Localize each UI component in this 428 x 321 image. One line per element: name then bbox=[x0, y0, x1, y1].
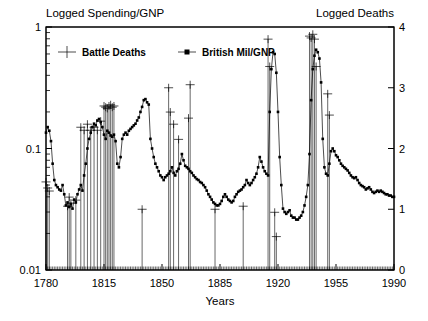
right-axis-tick-label: 0 bbox=[399, 264, 405, 276]
data-point-british-mil-gnp bbox=[139, 111, 142, 114]
data-point-british-mil-gnp bbox=[144, 98, 147, 101]
data-point-british-mil-gnp bbox=[244, 184, 247, 187]
left-axis-tick-label: 0.1 bbox=[26, 143, 41, 155]
data-point-british-mil-gnp bbox=[141, 106, 144, 109]
data-point-british-mil-gnp bbox=[126, 133, 129, 136]
data-point-british-mil-gnp bbox=[121, 138, 124, 141]
data-point-british-mil-gnp bbox=[171, 166, 174, 169]
data-point-british-mil-gnp bbox=[119, 156, 122, 159]
data-point-british-mil-gnp bbox=[355, 176, 358, 179]
data-point-british-mil-gnp bbox=[182, 159, 185, 162]
data-point-british-mil-gnp bbox=[346, 169, 349, 172]
data-point-british-mil-gnp bbox=[303, 204, 306, 207]
right-axis-tick-label: 2 bbox=[399, 143, 405, 155]
legend-label-battle-deaths: Battle Deaths bbox=[82, 47, 146, 58]
data-point-british-mil-gnp bbox=[278, 156, 281, 159]
data-point-british-mil-gnp bbox=[258, 156, 261, 159]
data-point-british-mil-gnp bbox=[181, 153, 184, 156]
data-point-british-mil-gnp bbox=[98, 118, 101, 121]
data-point-british-mil-gnp bbox=[84, 162, 87, 165]
data-point-british-mil-gnp bbox=[136, 119, 139, 122]
data-point-british-mil-gnp bbox=[205, 189, 208, 192]
data-point-british-mil-gnp bbox=[232, 200, 235, 203]
data-point-british-mil-gnp bbox=[118, 166, 121, 169]
data-point-british-mil-gnp bbox=[152, 156, 155, 159]
data-point-british-mil-gnp bbox=[46, 126, 49, 129]
right-axis-tick-label: 3 bbox=[399, 82, 405, 94]
data-point-british-mil-gnp bbox=[146, 101, 149, 104]
data-point-british-mil-gnp bbox=[76, 193, 79, 196]
data-point-british-mil-gnp bbox=[162, 179, 165, 182]
left-axis-title: Logged Spending/GNP bbox=[46, 7, 165, 19]
data-point-british-mil-gnp bbox=[48, 129, 51, 132]
data-point-british-mil-gnp bbox=[318, 57, 321, 60]
data-point-british-mil-gnp bbox=[280, 184, 283, 187]
data-point-british-mil-gnp bbox=[88, 138, 91, 141]
data-point-british-mil-gnp bbox=[174, 174, 177, 177]
data-point-british-mil-gnp bbox=[179, 162, 182, 165]
data-point-british-mil-gnp bbox=[260, 160, 263, 163]
data-point-british-mil-gnp bbox=[224, 193, 227, 196]
data-point-british-mil-gnp bbox=[323, 166, 326, 169]
data-point-british-mil-gnp bbox=[51, 162, 54, 165]
chart-canvas: Logged Spending/GNP Logged Deaths 10.10.… bbox=[0, 0, 428, 321]
data-point-british-mil-gnp bbox=[270, 68, 273, 71]
data-point-british-mil-gnp bbox=[154, 162, 157, 165]
x-axis-tick-label: 1780 bbox=[34, 277, 58, 289]
data-point-british-mil-gnp bbox=[50, 140, 53, 143]
data-point-british-mil-gnp bbox=[207, 193, 210, 196]
data-point-british-mil-gnp bbox=[149, 138, 152, 141]
data-point-british-mil-gnp bbox=[368, 186, 371, 189]
data-point-british-mil-gnp bbox=[191, 172, 194, 175]
x-axis-tick-label: 1990 bbox=[382, 277, 406, 289]
legend-label-british-mil-gnp: British Mil/GNP bbox=[202, 47, 275, 58]
data-point-british-mil-gnp bbox=[220, 200, 223, 203]
data-point-british-mil-gnp bbox=[116, 162, 119, 165]
data-point-british-mil-gnp bbox=[277, 111, 280, 114]
data-point-british-mil-gnp bbox=[151, 147, 154, 150]
data-point-british-mil-gnp bbox=[356, 179, 359, 182]
data-point-british-mil-gnp bbox=[147, 103, 150, 106]
data-point-british-mil-gnp bbox=[263, 170, 266, 173]
data-point-british-mil-gnp bbox=[101, 126, 104, 129]
left-axis-tick-label: 0.01 bbox=[20, 264, 41, 276]
legend-marker-british-mil-gnp-dot bbox=[185, 50, 190, 55]
x-axis-tick-label: 1885 bbox=[208, 277, 232, 289]
data-point-british-mil-gnp bbox=[363, 186, 366, 189]
data-point-british-mil-gnp bbox=[225, 196, 228, 199]
data-point-british-mil-gnp bbox=[176, 170, 179, 173]
data-point-british-mil-gnp bbox=[305, 196, 308, 199]
right-axis-tick-label: 4 bbox=[399, 21, 405, 33]
data-point-british-mil-gnp bbox=[222, 196, 225, 199]
data-point-british-mil-gnp bbox=[61, 184, 64, 187]
data-point-british-mil-gnp bbox=[94, 124, 97, 127]
data-point-british-mil-gnp bbox=[302, 211, 305, 214]
data-point-british-mil-gnp bbox=[257, 166, 260, 169]
data-point-british-mil-gnp bbox=[255, 172, 258, 175]
data-point-british-mil-gnp bbox=[252, 179, 255, 182]
data-point-british-mil-gnp bbox=[307, 184, 310, 187]
data-point-british-mil-gnp bbox=[330, 150, 333, 153]
data-point-british-mil-gnp bbox=[138, 116, 141, 119]
data-point-british-mil-gnp bbox=[333, 150, 336, 153]
data-point-british-mil-gnp bbox=[282, 207, 285, 210]
data-point-british-mil-gnp bbox=[235, 193, 238, 196]
data-point-british-mil-gnp bbox=[161, 176, 164, 179]
data-point-british-mil-gnp bbox=[348, 172, 351, 175]
data-point-british-mil-gnp bbox=[156, 166, 159, 169]
data-point-british-mil-gnp bbox=[370, 188, 373, 191]
data-point-british-mil-gnp bbox=[321, 138, 324, 141]
data-point-british-mil-gnp bbox=[53, 179, 56, 182]
data-point-british-mil-gnp bbox=[245, 179, 248, 182]
data-point-british-mil-gnp bbox=[219, 203, 222, 206]
data-point-british-mil-gnp bbox=[300, 214, 303, 217]
data-point-british-mil-gnp bbox=[210, 198, 213, 201]
right-axis-tick-label: 1 bbox=[399, 203, 405, 215]
data-point-british-mil-gnp bbox=[134, 122, 137, 125]
left-axis-tick-label: 1 bbox=[35, 21, 41, 33]
data-point-british-mil-gnp bbox=[204, 186, 207, 189]
data-point-british-mil-gnp bbox=[56, 186, 59, 189]
data-point-british-mil-gnp bbox=[315, 48, 318, 51]
data-point-british-mil-gnp bbox=[254, 176, 257, 179]
chart-container: Logged Spending/GNP Logged Deaths 10.10.… bbox=[0, 0, 428, 321]
